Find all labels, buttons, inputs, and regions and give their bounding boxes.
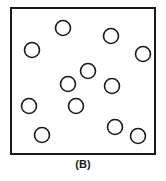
- circle-marker: [56, 21, 71, 36]
- circle-marker: [25, 43, 40, 58]
- circle-marker: [22, 99, 37, 114]
- figure-caption: (B): [0, 157, 166, 171]
- circle-marker: [35, 128, 50, 143]
- circle-marker: [81, 64, 96, 79]
- circle-marker: [131, 129, 146, 144]
- figure-panel: (B): [0, 0, 166, 181]
- circle-marker: [136, 47, 151, 62]
- circle-marker: [69, 99, 84, 114]
- circle-marker: [105, 79, 120, 94]
- circle-marker: [61, 77, 76, 92]
- figure-canvas: [0, 0, 166, 157]
- circle-marker: [108, 120, 123, 135]
- circle-marker: [104, 29, 119, 44]
